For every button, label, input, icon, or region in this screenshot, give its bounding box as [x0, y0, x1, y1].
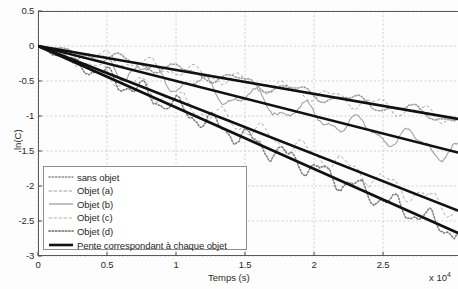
data-curve [38, 46, 458, 162]
x-tick-label: 1 [166, 259, 186, 270]
legend-item-label: Objet (a) [77, 185, 113, 196]
multiplier-text: x 10 [429, 272, 447, 283]
legend-item[interactable]: Objet (c) [44, 211, 246, 225]
legend-item-label: Objet (d) [77, 226, 113, 237]
y-tick-label: -2.5 [0, 215, 34, 226]
y-tick-label: -1 [0, 110, 34, 121]
x-axis-title: Temps (s) [208, 272, 250, 283]
legend-box: sans objetObjet (a)Objet (b)Objet (c)Obj… [43, 166, 247, 250]
x-tick-label: 1.5 [235, 259, 255, 270]
y-tick-label: 0 [0, 40, 34, 51]
legend-item[interactable]: Objet (d) [44, 224, 246, 238]
legend-line-sample-icon [48, 225, 74, 237]
fit-line [38, 46, 458, 119]
x-axis-multiplier: x 104 [429, 271, 451, 283]
legend-item-label: Objet (b) [77, 199, 113, 210]
x-tick-label: 2.5 [373, 259, 393, 270]
x-tick-label: 0.5 [97, 259, 117, 270]
legend-item[interactable]: Pente correspondant à chaque objet [44, 238, 246, 252]
legend-line-sample-icon [48, 212, 74, 224]
legend-line-sample-icon [48, 185, 74, 197]
legend-item[interactable]: sans objet [44, 170, 246, 184]
multiplier-exponent: 4 [447, 271, 451, 278]
legend-item-label: Objet (c) [77, 212, 113, 223]
legend-line-sample-icon [48, 171, 74, 183]
fit-line [38, 46, 458, 153]
legend-item-label: Pente correspondant à chaque objet [77, 240, 227, 251]
y-axis-title: ln(C) [12, 129, 23, 150]
x-tick-label: 2 [304, 259, 324, 270]
figure-canvas: 0.50-0.5-1-1.5-2-2.5-3 00.511.522.5 ln(C… [0, 0, 458, 289]
legend-item[interactable]: Objet (a) [44, 184, 246, 198]
legend-item-label: sans objet [77, 172, 119, 183]
y-tick-label: -0.5 [0, 75, 34, 86]
x-tick-label: 0 [28, 259, 48, 270]
legend-line-sample-icon [48, 239, 74, 251]
y-tick-label: -2 [0, 180, 34, 191]
y-tick-label: 0.5 [0, 5, 34, 16]
legend-line-sample-icon [48, 198, 74, 210]
legend-item[interactable]: Objet (b) [44, 197, 246, 211]
